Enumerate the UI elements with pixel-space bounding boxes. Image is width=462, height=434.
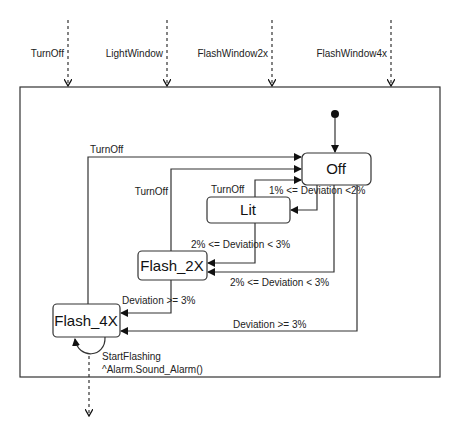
- state-label-flash2x: Flash_2X: [140, 257, 203, 274]
- label-flash4x-to-off: TurnOff: [90, 144, 124, 155]
- initial-state-dot: [331, 110, 339, 118]
- label-self-loop-action: ^Alarm.Sound_Alarm(): [102, 364, 203, 375]
- label-lit-to-off: TurnOff: [211, 184, 245, 195]
- state-off: Off: [302, 153, 371, 185]
- state-flash2x: Flash_2X: [138, 251, 207, 280]
- state-label-flash4x: Flash_4X: [54, 312, 117, 329]
- label-flash2x-to-flash4x: Deviation >= 3%: [122, 295, 195, 306]
- label-lit-to-flash2x: 2% <= Deviation < 3%: [191, 239, 290, 250]
- event-label-flashwindow4x: FlashWindow4x: [316, 48, 387, 59]
- state-label-lit: Lit: [240, 201, 257, 218]
- state-diagram: TurnOff LightWindow FlashWindow2x FlashW…: [0, 0, 462, 434]
- transition-flash4x-self-loop: [75, 337, 105, 354]
- state-lit: Lit: [207, 197, 290, 223]
- label-off-to-lit: 1% <= Deviation <2%: [269, 185, 366, 196]
- state-flash4x: Flash_4X: [53, 304, 120, 337]
- state-label-off: Off: [326, 160, 347, 177]
- event-label-lightwindow: LightWindow: [106, 48, 164, 59]
- label-self-loop-event: StartFlashing: [102, 351, 161, 362]
- label-off-to-flash2x: 2% <= Deviation < 3%: [230, 277, 329, 288]
- label-off-to-flash4x: Deviation >= 3%: [233, 319, 306, 330]
- event-label-flashwindow2x: FlashWindow2x: [197, 48, 268, 59]
- event-label-turnoff: TurnOff: [31, 48, 65, 59]
- external-event-arrows: TurnOff LightWindow FlashWindow2x FlashW…: [31, 20, 391, 86]
- label-flash2x-to-off: TurnOff: [135, 186, 169, 197]
